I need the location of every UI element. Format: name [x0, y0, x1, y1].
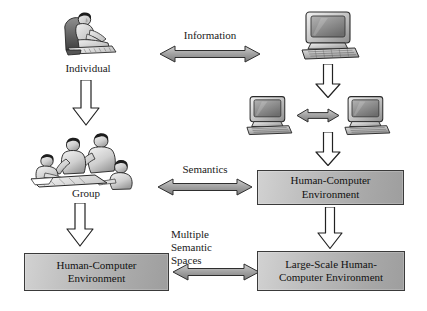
node-group-label: Group: [36, 187, 136, 199]
node-hce-right-line2: Environment: [302, 188, 359, 200]
node-computer-left: [243, 95, 295, 137]
arrow-group-to-hce-bottom: [66, 203, 94, 247]
edge-label-information: Information: [155, 29, 265, 41]
down-arrow-icon: [315, 132, 341, 166]
double-headed-horizontal-arrow-icon: [158, 178, 252, 196]
node-computer-right: [341, 95, 393, 137]
node-hce-bottom-left-text: Human-Computer Environment: [52, 259, 140, 286]
node-computer-single: [297, 10, 363, 62]
node-hce-right-line1: Human-Computer: [290, 174, 370, 186]
node-hce-right-text: Human-Computer Environment: [286, 174, 374, 201]
down-arrow-icon: [72, 80, 100, 126]
down-arrow-icon: [66, 203, 94, 247]
node-hce-bottom-left: Human-Computer Environment: [24, 253, 169, 291]
group-of-people-icon: [25, 131, 147, 193]
node-large-scale-hce-text: Large-Scale Human- Computer Environment: [275, 258, 387, 285]
node-large-scale-hce-line1: Large-Scale Human-: [285, 258, 377, 270]
desktop-computer-icon: [341, 95, 393, 137]
arrow-hce-to-large-scale: [317, 207, 343, 249]
desktop-computer-icon: [243, 95, 295, 137]
down-arrow-icon: [317, 207, 343, 249]
arrow-computers-to-hce: [315, 132, 341, 166]
arrow-multiple-semantic-spaces: [173, 263, 259, 281]
node-individual-label: Individual: [38, 62, 138, 74]
edge-label-multiple-semantic-spaces: Multiple Semantic Spaces: [171, 228, 257, 267]
person-reading-icon: [52, 10, 124, 60]
node-hce-right: Human-Computer Environment: [257, 170, 404, 205]
arrow-between-computers: [297, 108, 339, 123]
node-hce-bottom-left-line1: Human-Computer: [56, 259, 136, 271]
desktop-computer-icon: [297, 10, 363, 62]
edge-label-mss-line2: Semantic: [171, 241, 257, 254]
edge-label-semantics: Semantics: [155, 163, 255, 175]
double-headed-horizontal-arrow-icon: [173, 263, 259, 281]
arrow-computer-to-computers: [315, 64, 341, 98]
node-group: [25, 131, 147, 193]
diagram-canvas: Individual Information: [0, 0, 427, 311]
arrow-information: [160, 45, 260, 63]
edge-label-mss-line1: Multiple: [171, 228, 257, 241]
arrow-individual-to-group: [72, 80, 100, 126]
node-hce-bottom-left-line2: Environment: [68, 272, 125, 284]
node-individual: [52, 10, 124, 60]
double-headed-horizontal-arrow-icon: [297, 108, 339, 123]
arrow-semantics: [158, 178, 252, 196]
node-large-scale-hce-line2: Computer Environment: [279, 271, 383, 283]
down-arrow-icon: [315, 64, 341, 98]
node-large-scale-hce: Large-Scale Human- Computer Environment: [257, 251, 405, 291]
double-headed-horizontal-arrow-icon: [160, 45, 260, 63]
